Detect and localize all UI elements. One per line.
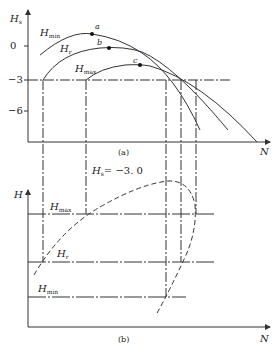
level-hr: Hr bbox=[57, 249, 69, 260]
tick-0: 0 bbox=[10, 41, 16, 51]
diagram-canvas bbox=[0, 0, 277, 357]
label-hr-top: Hr bbox=[60, 44, 72, 55]
curve-hmax bbox=[86, 65, 257, 142]
top-x-axis-label: N bbox=[260, 147, 269, 157]
point-a: a bbox=[95, 23, 100, 31]
point-b: b bbox=[97, 39, 102, 47]
top-y-axis-label: Hs bbox=[10, 14, 22, 25]
bottom-x-axis-label: N bbox=[260, 334, 269, 344]
tick-minus6: −6 bbox=[8, 106, 23, 116]
point-c: c bbox=[133, 57, 137, 65]
label-hmax-top: Hmax bbox=[75, 64, 96, 75]
figure: Hs 0 −3 −6 Hmin a Hr b Hmax c (a) N Hs= … bbox=[0, 0, 277, 357]
caption-a: (a) bbox=[118, 149, 129, 157]
caption-b: (b) bbox=[118, 336, 129, 344]
label-hmin-top: Hmin bbox=[40, 28, 60, 39]
bottom-y-axis-label: H bbox=[14, 190, 23, 200]
tick-minus3: −3 bbox=[8, 75, 23, 85]
level-hmax: Hmax bbox=[50, 202, 71, 213]
level-hmin: Hmin bbox=[38, 284, 58, 295]
hs-annotation: Hs= −3. 0 bbox=[92, 166, 143, 177]
